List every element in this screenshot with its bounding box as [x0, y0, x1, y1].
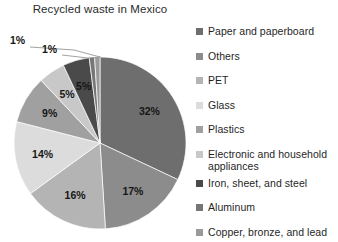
callout-label-copper: 1% [42, 43, 58, 55]
chart-title: Recycled waste in Mexico [0, 3, 200, 15]
legend-item[interactable]: Plastics [196, 123, 338, 135]
legend-item[interactable]: Electronic and household appliances [196, 148, 338, 172]
legend-item[interactable]: Copper, bronze, and lead [196, 226, 338, 238]
legend-item-label: Plastics [208, 123, 245, 135]
legend-swatch-icon [196, 229, 203, 236]
pie-slice-value-label: 17% [122, 185, 144, 197]
callout-label-aluminum: 1% [10, 34, 26, 46]
legend-swatch-icon [196, 77, 203, 84]
pie-slice-value-label: 32% [139, 105, 161, 117]
chart-legend: Paper and paperboardOthersPETGlassPlasti… [196, 25, 338, 242]
legend-swatch-icon [196, 102, 203, 109]
legend-swatch-icon [196, 204, 203, 211]
legend-item-label: Paper and paperboard [208, 25, 314, 37]
pie-slice-value-label: 5% [76, 80, 92, 92]
legend-item-label: Others [208, 50, 240, 62]
legend-swatch-icon [196, 151, 203, 158]
legend-swatch-icon [196, 53, 203, 60]
pie-slice-group [14, 57, 186, 229]
legend-item-label: Electronic and household appliances [208, 148, 338, 172]
legend-item[interactable]: Glass [196, 99, 338, 111]
legend-item[interactable]: PET [196, 74, 338, 86]
pie-slice-value-label: 16% [65, 189, 87, 201]
legend-swatch-icon [196, 180, 203, 187]
legend-item[interactable]: Others [196, 50, 338, 62]
legend-item[interactable]: Iron, sheet, and steel [196, 177, 338, 189]
legend-item[interactable]: Aluminum [196, 201, 338, 213]
pie-chart-figure: Recycled waste in Mexico 32%17%16%14%9%5… [0, 0, 338, 242]
pie-slice-value-label: 14% [32, 148, 54, 160]
legend-item-label: Copper, bronze, and lead [208, 226, 327, 238]
legend-item-label: PET [208, 74, 229, 86]
pie-chart-canvas: 32%17%16%14%9%5%5% 1% 1% [0, 22, 196, 242]
legend-item[interactable]: Paper and paperboard [196, 25, 338, 37]
legend-item-label: Iron, sheet, and steel [208, 177, 307, 189]
pie-callout-group: 1% 1% [10, 34, 101, 58]
legend-item-label: Glass [208, 99, 235, 111]
legend-swatch-icon [196, 28, 203, 35]
legend-item-label: Aluminum [208, 201, 255, 213]
pie-slice-value-label: 5% [60, 88, 76, 100]
pie-slice-value-label: 9% [42, 107, 58, 119]
legend-swatch-icon [196, 126, 203, 133]
